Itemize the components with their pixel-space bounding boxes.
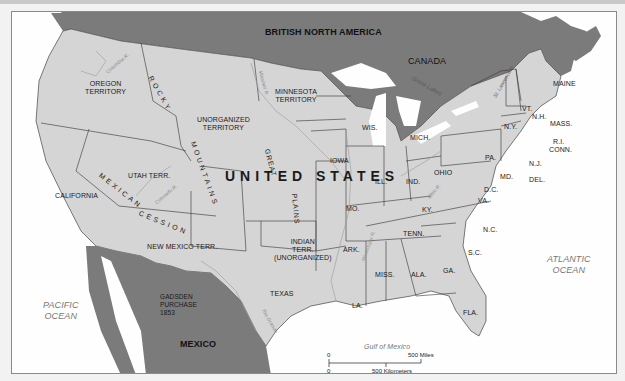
label-texas: TEXAS xyxy=(270,290,293,298)
state-label-ohio: OHIO xyxy=(434,169,452,177)
state-label-fla: FLA. xyxy=(463,309,478,317)
state-label-mich: MICH. xyxy=(410,134,430,142)
pacific-line2: OCEAN xyxy=(45,311,78,321)
oregon-line1: OREGON xyxy=(90,80,122,87)
scale-bar-lines xyxy=(329,359,421,367)
label-indian-territory: INDIANTERR.(UNORGANIZED) xyxy=(274,238,332,262)
state-label-miss: MISS. xyxy=(375,271,395,279)
unorganized-line1: UNORGANIZED xyxy=(197,116,250,123)
state-label-la: LA. xyxy=(352,302,363,310)
state-label-sc: S.C. xyxy=(468,249,482,257)
gadsden-line1: GADSDEN xyxy=(160,293,193,300)
state-label-tenn: TENN. xyxy=(403,230,425,238)
map-frame: BRITISH NORTH AMERICA CANADA MEXICO UNIT… xyxy=(11,11,617,374)
indian-line3: (UNORGANIZED) xyxy=(274,254,332,261)
label-minnesota-territory: MINNESOTATERRITORY xyxy=(275,88,317,104)
indian-line1: INDIAN xyxy=(291,238,315,245)
state-label-mass: MASS. xyxy=(550,120,572,128)
label-unorganized-territory: UNORGANIZEDTERRITORY xyxy=(197,116,250,132)
gadsden-line2: PURCHASE xyxy=(160,301,197,308)
label-pacific-ocean: PACIFICOCEAN xyxy=(43,300,79,322)
state-label-nc: N.C. xyxy=(483,226,497,234)
state-label-dc: D.C. xyxy=(484,186,498,194)
top-strip xyxy=(0,0,625,4)
scale-km-zero: 0 xyxy=(327,368,330,374)
minnesota-line1: MINNESOTA xyxy=(275,88,317,95)
state-label-ala: ALA. xyxy=(411,271,427,279)
atlantic-line1: ATLANTIC xyxy=(547,254,591,264)
state-label-ill: ILL. xyxy=(375,178,387,186)
state-label-vt: VT. xyxy=(522,105,532,113)
unorganized-line2: TERRITORY xyxy=(203,124,244,131)
state-label-del: DEL. xyxy=(529,176,545,184)
pacific-line1: PACIFIC xyxy=(43,300,79,310)
state-label-mo: MO. xyxy=(346,205,360,213)
state-label-iowa: IOWA xyxy=(330,157,349,165)
atlantic-line2: OCEAN xyxy=(553,265,586,275)
state-label-ga: GA. xyxy=(443,267,455,275)
label-canada: CANADA xyxy=(408,57,446,65)
label-utah-territory: UTAH TERR. xyxy=(128,172,170,180)
label-new-mexico-territory: NEW MEXICO TERR. xyxy=(147,243,217,251)
scale-miles-label: 500 Miles xyxy=(408,352,434,358)
state-label-maine: MAINE xyxy=(553,80,576,88)
gadsden-line3: 1853 xyxy=(160,309,175,316)
scale-km-label: 500 Kilometers xyxy=(372,368,412,374)
state-label-ri: R.I. xyxy=(553,138,564,146)
label-united-states: UNITED STATES xyxy=(225,172,399,180)
map-canvas xyxy=(12,12,617,374)
state-label-wis: WIS. xyxy=(362,124,378,132)
label-atlantic-ocean: ATLANTICOCEAN xyxy=(547,254,591,276)
minnesota-line2: TERRITORY xyxy=(275,96,316,103)
state-label-conn: CONN. xyxy=(549,146,572,154)
label-california: CALIFORNIA xyxy=(55,192,98,200)
state-label-ky: KY. xyxy=(422,206,433,214)
state-label-ind: IND. xyxy=(406,178,420,186)
oregon-line2: TERRITORY xyxy=(85,88,126,95)
label-gulf-of-mexico: Gulf of Mexico xyxy=(364,341,410,352)
scale-miles-zero: 0 xyxy=(327,352,330,358)
label-british-north-america: BRITISH NORTH AMERICA xyxy=(265,28,382,36)
label-oregon-territory: OREGONTERRITORY xyxy=(85,80,126,96)
label-gadsden-purchase: GADSDENPURCHASE1853 xyxy=(160,293,197,317)
state-label-nj: N.J. xyxy=(529,160,542,168)
state-label-md: MD. xyxy=(500,173,513,181)
indian-line2: TERR. xyxy=(292,246,314,253)
state-label-nh: N.H. xyxy=(532,113,546,121)
state-label-ny: N.Y. xyxy=(504,123,517,131)
label-mexico: MEXICO xyxy=(180,340,216,348)
state-label-va: VA. xyxy=(478,197,489,205)
state-label-ark: ARK. xyxy=(343,246,360,254)
state-label-pa: PA. xyxy=(485,154,496,162)
